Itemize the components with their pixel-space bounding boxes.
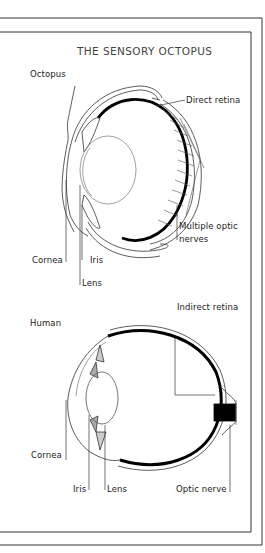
label-multiple-optic-line2: nerves bbox=[179, 234, 208, 244]
label-human-iris: Iris bbox=[73, 484, 86, 494]
human-lens bbox=[86, 372, 118, 424]
human-leader-lines bbox=[66, 338, 230, 492]
octopus-cornea bbox=[66, 140, 88, 236]
octopus-lens bbox=[80, 136, 136, 204]
label-indirect-retina: Indirect retina bbox=[177, 302, 238, 312]
octopus-lower-layer bbox=[88, 222, 168, 251]
label-octopus-iris: Iris bbox=[90, 255, 103, 265]
label-optic-nerve: Optic nerve bbox=[176, 484, 227, 494]
octopus-leader-lines bbox=[66, 100, 185, 285]
label-human-lens: Lens bbox=[107, 484, 127, 494]
label-human-cornea: Cornea bbox=[31, 450, 62, 460]
octopus-outer-layer bbox=[72, 86, 162, 140]
label-direct-retina: Direct retina bbox=[186, 95, 240, 105]
human-heading: Human bbox=[30, 318, 61, 328]
label-multiple-optic-line1: Multiple optic bbox=[179, 221, 238, 231]
octopus-iris-lower bbox=[82, 195, 100, 228]
human-optic-nerve bbox=[214, 404, 236, 421]
diagram-title: THE SENSORY OCTOPUS bbox=[77, 45, 212, 57]
octopus-skin-outline bbox=[62, 86, 75, 232]
human-iris-lower bbox=[96, 432, 106, 450]
human-iris-upper bbox=[96, 345, 104, 362]
human-cornea bbox=[68, 336, 120, 461]
label-octopus-lens: Lens bbox=[82, 278, 102, 288]
octopus-eye bbox=[62, 86, 204, 258]
human-sclera bbox=[110, 326, 226, 471]
octopus-iris-upper bbox=[82, 118, 100, 152]
label-octopus-cornea: Cornea bbox=[32, 255, 63, 265]
diagram-canvas bbox=[0, 0, 265, 553]
human-indirect-retina bbox=[108, 331, 221, 465]
octopus-optic-nerves bbox=[158, 112, 204, 226]
octopus-heading: Octopus bbox=[30, 69, 66, 79]
human-eye bbox=[68, 326, 236, 471]
octopus-direct-retina bbox=[98, 100, 187, 241]
